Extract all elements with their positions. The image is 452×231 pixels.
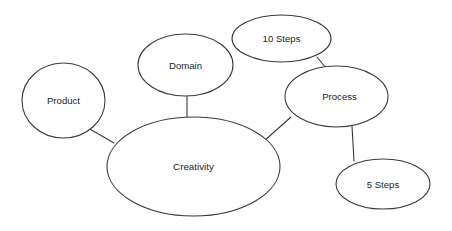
diagram-canvas: Product Domain 10 Steps Process 5 Steps … xyxy=(0,0,452,231)
node-ten-steps[interactable]: 10 Steps xyxy=(232,15,331,62)
five-steps-label: 5 Steps xyxy=(367,179,400,190)
creativity-label: Creativity xyxy=(173,161,214,172)
edge-product-creativity xyxy=(88,128,114,143)
product-label: Product xyxy=(47,95,80,106)
node-product[interactable]: Product xyxy=(22,63,105,138)
edge-process-fivesteps xyxy=(352,126,354,161)
edge-creativity-process xyxy=(264,117,291,141)
process-label: Process xyxy=(322,91,357,102)
domain-label: Domain xyxy=(169,60,202,71)
node-domain[interactable]: Domain xyxy=(138,34,233,96)
ten-steps-label: 10 Steps xyxy=(263,33,301,44)
node-creativity[interactable]: Creativity xyxy=(107,117,280,216)
node-process[interactable]: Process xyxy=(285,66,388,127)
concept-map-diagram: Product Domain 10 Steps Process 5 Steps … xyxy=(0,0,452,231)
node-five-steps[interactable]: 5 Steps xyxy=(336,159,430,209)
